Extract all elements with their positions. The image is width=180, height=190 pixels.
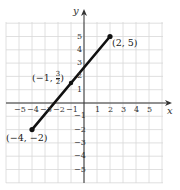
x-tick-label: 2 [108,106,113,114]
y-tick-label: 5 [77,33,82,41]
x-tick-label: −3 [40,106,52,114]
axes [6,9,172,183]
x-tick-label: −5 [14,106,26,114]
y-axis-label: y [73,6,79,16]
y-tick-label: −3 [74,139,86,147]
point-label-neg4-neg2: (−4, −2) [6,133,47,143]
y-tick-label: 3 [77,59,82,67]
point-label-2-5: (2, 5) [112,38,138,48]
coordinate-plane [0,0,180,190]
y-tick-label: 1 [77,86,82,94]
y-tick-label: −1 [74,112,86,120]
point-label-midpoint: (−1, 32) [32,71,64,86]
y-tick-label: −5 [74,166,86,174]
x-tick-label: 5 [147,106,152,114]
x-tick-label: 4 [134,106,139,114]
x-tick-label: −2 [53,106,65,114]
y-tick-label: 2 [77,72,82,80]
y-tick-label: −4 [74,152,86,160]
point-midpoint [69,81,73,85]
x-tick-label: 1 [95,106,100,114]
x-tick-label: 3 [121,106,126,114]
y-tick-label: −2 [74,126,86,134]
y-tick-label: 4 [77,46,82,54]
x-tick-label: −4 [27,106,39,114]
x-axis-label: x [167,106,173,116]
